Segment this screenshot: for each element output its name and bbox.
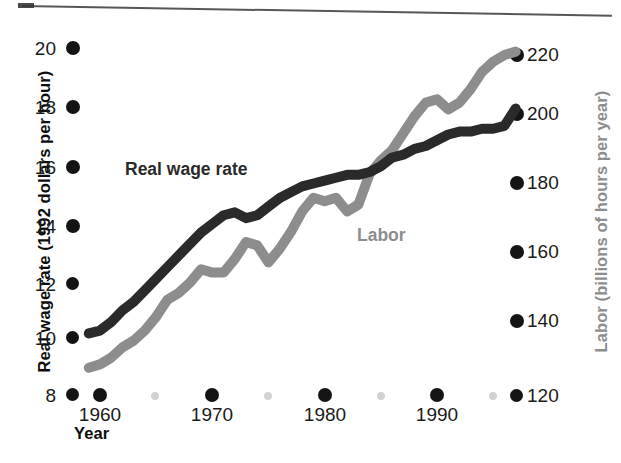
series-label-labor: Labor xyxy=(357,225,406,246)
series-label-real-wage-rate: Real wage rate xyxy=(125,159,248,180)
chart-plot-area xyxy=(0,0,621,463)
labor-series-line xyxy=(89,52,516,368)
chart-figure: Real wage rate (1992 dollars per hour) L… xyxy=(0,0,621,463)
